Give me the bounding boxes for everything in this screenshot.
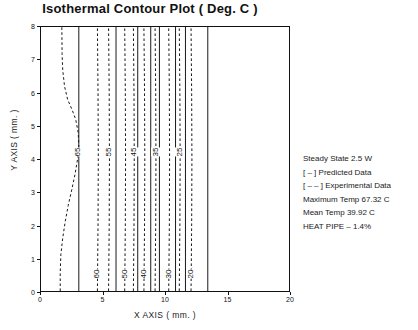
y-tick-mark	[37, 59, 40, 60]
contour-label-20: 20	[186, 269, 196, 278]
contour-label-50: 50	[120, 269, 130, 278]
contour-line-50	[125, 27, 126, 291]
plot-area	[40, 26, 290, 292]
contour-label-25: 25	[175, 148, 185, 157]
y-tick-mark	[37, 292, 40, 293]
y-tick-label: 7	[26, 56, 35, 63]
annotation-line-1: [ – ] Predicted Data	[303, 166, 415, 180]
x-tick-label: 0	[38, 296, 42, 303]
annotation-line-3: Maximum Temp 67.32 C	[303, 193, 415, 207]
y-tick-mark	[37, 159, 40, 160]
contour-line-20	[191, 27, 192, 291]
contour-label-55: 55	[104, 148, 114, 157]
contour-label-45: 45	[129, 148, 139, 157]
y-tick-mark	[37, 93, 40, 94]
annotation-line-4: Mean Temp 39.92 C	[303, 206, 415, 220]
contour-label-30: 30	[164, 269, 174, 278]
page-title: Isothermal Contour Plot ( Deg. C )	[0, 1, 300, 16]
annotation-line-0: Steady State 2.5 W	[303, 152, 415, 166]
contour-line-40	[144, 27, 145, 291]
x-axis-title: X AXIS ( mm. )	[40, 310, 290, 320]
annotation-line-2: [ – – ] Experimental Data	[303, 179, 415, 193]
x-tick-label: 15	[224, 296, 232, 303]
contour-line-25	[179, 27, 180, 291]
contour-label-35: 35	[151, 148, 161, 157]
contour-label-65: 65	[73, 148, 83, 157]
contour-lines-svg	[41, 27, 289, 291]
y-tick-mark	[37, 126, 40, 127]
contour-line-65	[60, 27, 79, 291]
y-tick-label: 4	[26, 156, 35, 163]
x-tick-mark	[228, 292, 229, 295]
x-tick-label: 20	[286, 296, 294, 303]
contour-line-30	[169, 27, 170, 291]
annotation-line-5: HEAT PIPE – 1.4%	[303, 220, 415, 234]
y-tick-label: 0	[26, 289, 35, 296]
annotation-legend-block: Steady State 2.5 W[ – ] Predicted Data[ …	[303, 152, 415, 233]
contour-label-60: 60	[92, 269, 102, 278]
contour-line-35	[155, 27, 156, 291]
y-tick-label: 3	[26, 189, 35, 196]
contour-plot-figure: Isothermal Contour Plot ( Deg. C ) 05101…	[0, 0, 418, 330]
y-tick-mark	[37, 192, 40, 193]
contour-line-55	[109, 27, 110, 291]
y-tick-label: 6	[26, 89, 35, 96]
y-tick-mark	[37, 259, 40, 260]
x-tick-mark	[165, 292, 166, 295]
y-tick-label: 2	[26, 222, 35, 229]
y-tick-label: 8	[26, 23, 35, 30]
y-tick-mark	[37, 26, 40, 27]
y-tick-label: 1	[26, 255, 35, 262]
y-tick-mark	[37, 226, 40, 227]
contour-line-45	[133, 27, 134, 291]
x-tick-label: 10	[161, 296, 169, 303]
contour-label-40: 40	[139, 269, 149, 278]
y-tick-label: 5	[26, 122, 35, 129]
x-tick-mark	[103, 292, 104, 295]
x-tick-label: 5	[101, 296, 105, 303]
y-axis-title: Y AXIS ( mm. )	[9, 90, 19, 190]
contour-line-60	[97, 27, 98, 291]
x-tick-mark	[290, 292, 291, 295]
x-tick-mark	[40, 292, 41, 295]
